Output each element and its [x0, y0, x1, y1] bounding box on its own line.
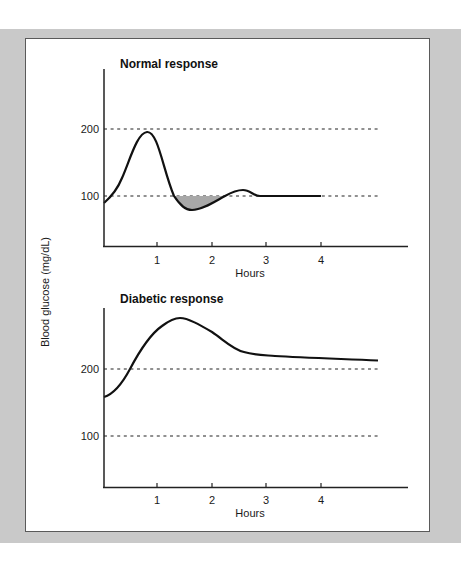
y-axis-label: Blood glucose (mg/dL) — [39, 237, 51, 347]
figure-svg: Blood glucose (mg/dL) Normal response 1 … — [0, 0, 461, 570]
x-tick-label: 2 — [209, 254, 215, 266]
diabetic-response-curve — [104, 318, 378, 397]
normal-response-chart: Normal response 1 2 3 4 Hours 200 100 — [81, 57, 408, 279]
x-tick-label: 2 — [209, 494, 215, 506]
y-tick-label: 100 — [81, 430, 99, 442]
diabetic-response-chart: Diabetic response 1 2 3 4 Hours 200 100 — [81, 292, 408, 519]
y-tick-label: 200 — [81, 123, 99, 135]
x-tick-label: 1 — [154, 494, 160, 506]
x-axis-label: Hours — [235, 507, 265, 519]
x-tick-label: 4 — [318, 254, 324, 266]
x-tick-label: 3 — [263, 254, 269, 266]
chart-title: Diabetic response — [120, 292, 224, 306]
x-tick-label: 1 — [154, 254, 160, 266]
x-axis-label: Hours — [235, 267, 265, 279]
chart-title: Normal response — [120, 57, 218, 71]
x-tick-label: 4 — [318, 494, 324, 506]
y-tick-label: 200 — [81, 363, 99, 375]
x-tick-label: 3 — [263, 494, 269, 506]
y-tick-label: 100 — [81, 190, 99, 202]
